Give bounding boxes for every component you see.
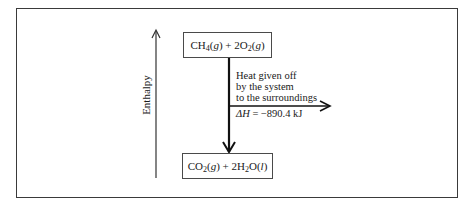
heat-line-1: Heat given off	[236, 70, 317, 81]
products-box: CO2(g) + 2H2O(l)	[182, 153, 273, 179]
heat-line-3: to the surroundings	[236, 92, 317, 103]
heat-annotation: Heat given off by the system to the surr…	[236, 70, 317, 103]
reactants-formula: CH4(g) + 2O2(g)	[190, 39, 264, 51]
products-formula: CO2(g) + 2H2O(l)	[188, 160, 268, 172]
delta-h-label: ΔH = −890.4 kJ	[236, 108, 302, 119]
heat-line-2: by the system	[236, 81, 317, 92]
delta-h-value: = −890.4 kJ	[250, 108, 303, 119]
reactants-box: CH4(g) + 2O2(g)	[183, 32, 272, 58]
delta-h-symbol: ΔH	[236, 108, 250, 119]
reaction-arrow-down	[223, 58, 235, 152]
enthalpy-axis-label: Enthalpy	[140, 72, 154, 118]
